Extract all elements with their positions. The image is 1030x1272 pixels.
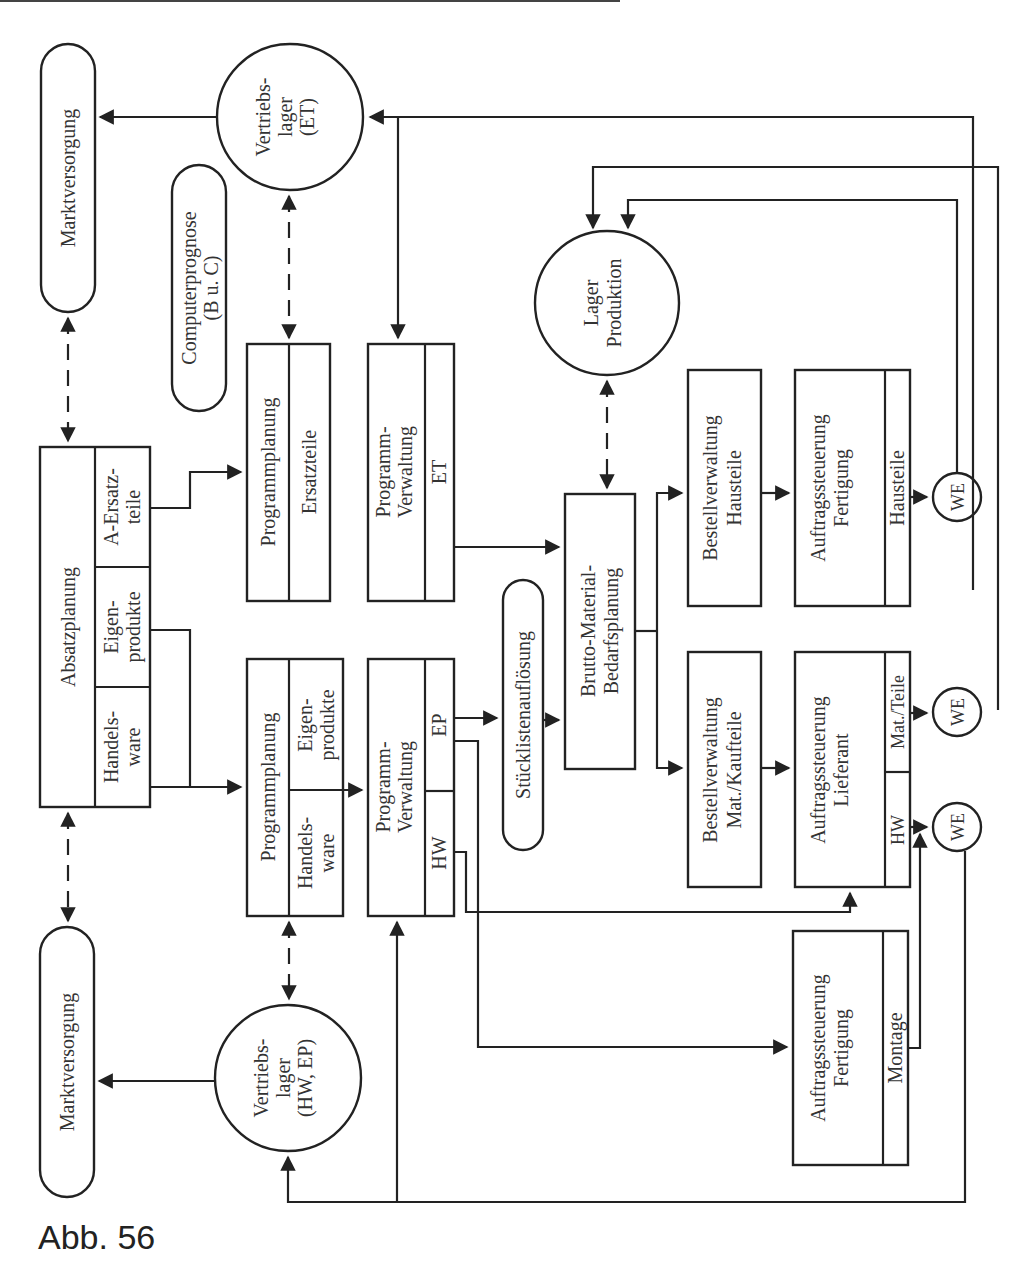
node-bestellverwaltung-hausteile: Bestellverwaltung Hausteile bbox=[688, 370, 761, 606]
node-programmplanung-main: Programmplanung Eigen- produkte Handels-… bbox=[247, 659, 343, 916]
svg-text:Programmplanung: Programmplanung bbox=[257, 398, 280, 547]
svg-text:EP: EP bbox=[428, 713, 450, 736]
svg-text:produkte: produkte bbox=[122, 591, 145, 662]
node-absatzplanung: Absatzplanung A-Ersatz- teile Eigen- pro… bbox=[40, 447, 150, 807]
svg-text:Handels-: Handels- bbox=[100, 711, 122, 783]
svg-text:Programm-: Programm- bbox=[372, 426, 395, 517]
svg-text:Auftragssteuerung: Auftragssteuerung bbox=[807, 974, 830, 1122]
svg-text:lager: lager bbox=[274, 97, 297, 137]
svg-text:Hausteile: Hausteile bbox=[886, 450, 908, 526]
svg-text:ET: ET bbox=[428, 460, 450, 484]
svg-text:WE: WE bbox=[948, 483, 968, 511]
svg-text:ware: ware bbox=[316, 833, 338, 872]
svg-text:Produktion: Produktion bbox=[603, 259, 625, 348]
svg-text:Marktversorgung: Marktversorgung bbox=[56, 993, 79, 1132]
node-marktversorgung-bottom: Marktversorgung bbox=[40, 927, 94, 1197]
svg-text:Bestellverwaltung: Bestellverwaltung bbox=[699, 415, 722, 561]
svg-text:produkte: produkte bbox=[316, 689, 339, 760]
svg-text:WE: WE bbox=[948, 813, 968, 841]
svg-text:Stücklistenauflösung: Stücklistenauflösung bbox=[512, 631, 535, 799]
node-bestellverwaltung-kaufteile: Bestellverwaltung Mat./Kaufteile bbox=[688, 652, 761, 887]
svg-text:Verwaltung: Verwaltung bbox=[394, 426, 417, 518]
figure-caption: Abb. 56 bbox=[38, 1218, 155, 1257]
node-we-handelsware: WE bbox=[933, 803, 981, 851]
svg-text:Auftragssteuerung: Auftragssteuerung bbox=[807, 696, 830, 844]
node-stuecklistenaufloesung: Stücklistenauflösung bbox=[503, 580, 543, 850]
svg-text:Montage: Montage bbox=[884, 1012, 907, 1083]
svg-text:Fertigung: Fertigung bbox=[830, 1009, 853, 1087]
node-we-mat-teile: WE bbox=[933, 688, 981, 736]
svg-text:Marktversorgung: Marktversorgung bbox=[57, 109, 80, 248]
svg-text:(ET): (ET) bbox=[296, 98, 319, 136]
svg-text:Bedarfsplanung: Bedarfsplanung bbox=[600, 568, 623, 695]
svg-text:Lieferant: Lieferant bbox=[830, 733, 852, 807]
node-programmplanung-ersatzteile: Programmplanung Ersatzteile bbox=[247, 344, 330, 601]
svg-text:Programm-: Programm- bbox=[372, 741, 395, 832]
node-auftragssteuerung-fertigung-montage: Auftragssteuerung Fertigung Montage bbox=[793, 931, 908, 1165]
svg-text:Lager: Lager bbox=[580, 279, 603, 326]
svg-text:Mat./Teile: Mat./Teile bbox=[888, 675, 908, 749]
node-lager-produktion: Lager Produktion bbox=[535, 231, 679, 375]
svg-text:Auftragssteuerung: Auftragssteuerung bbox=[807, 414, 830, 562]
node-auftragssteuerung-lieferant: Auftragssteuerung Lieferant Mat./Teile H… bbox=[795, 652, 910, 887]
node-auftragssteuerung-fertigung-hausteile: Auftragssteuerung Fertigung Hausteile bbox=[795, 370, 910, 606]
svg-text:teile: teile bbox=[122, 490, 144, 525]
svg-text:Bestellverwaltung: Bestellverwaltung bbox=[699, 697, 722, 843]
node-marktversorgung-top: Marktversorgung bbox=[41, 44, 95, 312]
node-programmverwaltung-et: Programm- Verwaltung ET bbox=[368, 344, 454, 601]
svg-text:Vertriebs-: Vertriebs- bbox=[250, 1039, 272, 1118]
svg-text:Handels-: Handels- bbox=[294, 817, 316, 889]
svg-text:Computerprognose: Computerprognose bbox=[178, 211, 201, 364]
node-computerprognose: Computerprognose (B u. C) bbox=[172, 165, 226, 411]
svg-text:(B u. C): (B u. C) bbox=[200, 256, 223, 321]
svg-text:Verwaltung: Verwaltung bbox=[394, 741, 417, 833]
svg-text:Absatzplanung: Absatzplanung bbox=[57, 567, 80, 687]
svg-text:lager: lager bbox=[272, 1058, 295, 1098]
node-brutto-material-bedarfsplanung: Brutto-Material- Bedarfsplanung bbox=[565, 494, 635, 769]
svg-text:Hausteile: Hausteile bbox=[723, 450, 745, 526]
svg-text:Eigen-: Eigen- bbox=[294, 698, 317, 751]
node-vertriebslager-et: Vertriebs- lager (ET) bbox=[217, 44, 363, 190]
node-vertriebslager-hw-ep: Vertriebs- lager (HW, EP) bbox=[215, 1005, 361, 1151]
node-programmverwaltung-main: Programm- Verwaltung EP HW bbox=[368, 659, 454, 916]
svg-text:ware: ware bbox=[122, 727, 144, 766]
svg-text:Vertriebs-: Vertriebs- bbox=[252, 78, 274, 157]
svg-text:WE: WE bbox=[948, 698, 968, 726]
svg-text:(HW, EP): (HW, EP) bbox=[294, 1039, 317, 1117]
svg-text:Eigen-: Eigen- bbox=[100, 600, 123, 653]
svg-text:Programmplanung: Programmplanung bbox=[257, 713, 280, 862]
svg-text:Mat./Kaufteile: Mat./Kaufteile bbox=[723, 711, 745, 828]
svg-text:HW: HW bbox=[888, 815, 908, 845]
svg-text:A-Ersatz-: A-Ersatz- bbox=[100, 468, 122, 546]
svg-text:Brutto-Material-: Brutto-Material- bbox=[577, 565, 599, 697]
svg-text:Ersatzteile: Ersatzteile bbox=[298, 430, 320, 515]
flow-diagram: Marktversorgung Vertriebs- lager (ET) Co… bbox=[0, 0, 1030, 1272]
svg-text:Fertigung: Fertigung bbox=[830, 449, 853, 527]
svg-text:HW: HW bbox=[428, 836, 450, 869]
